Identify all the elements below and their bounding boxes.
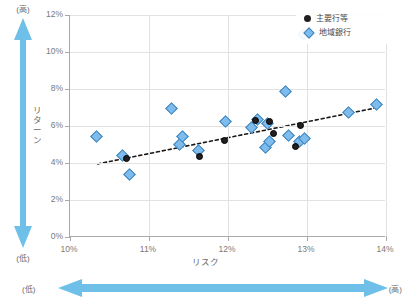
circle-marker-icon (304, 15, 311, 22)
y-axis-tick (65, 200, 70, 201)
data-point-main-banks (123, 155, 130, 162)
legend-label-regional-banks: 地域銀行 (319, 26, 351, 39)
chart-legend: 主要行等 地域銀行 (296, 10, 394, 44)
legend-item-main-banks: 主要行等 (304, 12, 348, 25)
legend-label-main-banks: 主要行等 (316, 12, 348, 25)
x-axis-tick (307, 236, 308, 241)
y-axis-label: 6% (29, 120, 63, 130)
risk-axis-title: リスク (0, 255, 410, 267)
risk-axis-annotation: (低) (高) (0, 272, 410, 305)
data-point-main-banks (221, 137, 228, 144)
x-axis-label: 11% (128, 244, 168, 254)
gridline-vertical (386, 15, 387, 236)
data-point-regional-banks (342, 106, 355, 119)
chart-root: (高) リターン (低) 主要行等 地域銀行 リスク 0%2%4%6%8%10%… (0, 0, 410, 305)
risk-low-label: (低) (22, 283, 35, 294)
data-point-main-banks (297, 122, 304, 129)
gridline-vertical (307, 15, 308, 236)
y-axis-tick (65, 126, 70, 127)
x-axis-label: 12% (207, 244, 247, 254)
x-axis-tick (386, 236, 387, 241)
plot-frame (69, 15, 385, 237)
risk-high-label: (高) (389, 283, 402, 294)
x-axis-tick (228, 236, 229, 241)
y-axis-tick (65, 89, 70, 90)
y-axis-label: 8% (29, 83, 63, 93)
data-point-regional-banks (165, 103, 178, 116)
data-point-regional-banks (370, 98, 383, 111)
data-point-regional-banks (279, 85, 292, 98)
y-axis-tick (65, 52, 70, 53)
data-point-regional-banks (90, 130, 103, 143)
y-axis-label: 4% (29, 157, 63, 167)
x-axis-label: 10% (49, 244, 89, 254)
data-point-main-banks (196, 153, 203, 160)
y-axis-label: 2% (29, 194, 63, 204)
y-axis-label: 0% (29, 231, 63, 241)
x-axis-label: 13% (286, 244, 326, 254)
legend-item-regional-banks: 地域銀行 (304, 26, 351, 39)
gridline-vertical (149, 15, 150, 236)
y-axis-tick (65, 15, 70, 16)
y-axis-label: 12% (29, 9, 63, 19)
data-point-main-banks (270, 130, 277, 137)
chart-area: 主要行等 地域銀行 リスク 0%2%4%6%8%10%12%10%11%12%1… (0, 0, 410, 272)
data-point-main-banks (266, 118, 273, 125)
x-axis-label: 14% (365, 244, 405, 254)
y-axis-tick (65, 163, 70, 164)
x-axis-tick (149, 236, 150, 241)
y-axis-label: 10% (29, 46, 63, 56)
diamond-marker-icon (303, 27, 314, 38)
data-point-regional-banks (123, 168, 136, 181)
gridline-vertical (228, 15, 229, 236)
x-axis-tick (70, 236, 71, 241)
data-point-main-banks (292, 143, 299, 150)
risk-double-arrow-icon (58, 278, 388, 298)
